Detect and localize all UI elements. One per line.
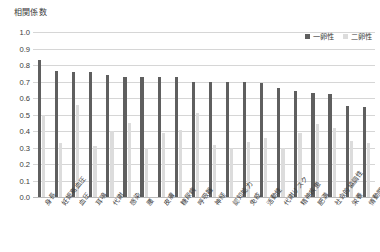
- bar: [140, 77, 143, 197]
- bar: [333, 128, 336, 197]
- x-tick-cell: 活動性: [255, 198, 272, 252]
- bar-group: [307, 32, 324, 197]
- legend-swatch-icon: [305, 34, 310, 39]
- bar-group: [255, 32, 272, 197]
- bar-group: [136, 32, 153, 197]
- x-tick-cell: 糖尿病: [170, 198, 187, 252]
- bar-group: [33, 32, 50, 197]
- bar-group: [204, 32, 221, 197]
- x-tick-cell: 情動関係: [358, 198, 375, 252]
- bar: [230, 148, 233, 198]
- x-tick-cell: 呼吸器: [187, 198, 204, 252]
- y-tick-label: 0.9: [12, 44, 30, 53]
- bar: [128, 123, 131, 197]
- bar: [110, 131, 113, 197]
- x-tick-cell: 身長: [33, 198, 50, 252]
- bar-group: [84, 32, 101, 197]
- y-axis-title: 相関係数: [14, 6, 47, 17]
- x-tick-cell: 肥満: [307, 198, 324, 252]
- bar: [179, 130, 182, 197]
- bar: [209, 82, 212, 197]
- bar: [363, 107, 366, 197]
- bar-group: [50, 32, 67, 197]
- bar: [196, 113, 199, 197]
- y-tick-label: 0.3: [12, 143, 30, 152]
- bar-group: [221, 32, 238, 197]
- bar-group: [187, 32, 204, 197]
- y-tick-label: 0.1: [12, 176, 30, 185]
- legend-item[interactable]: 一卵性: [305, 31, 334, 41]
- bar: [123, 77, 126, 197]
- bar-group: [153, 32, 170, 197]
- bar-series-group: [33, 32, 375, 197]
- y-tick-label: 0.0: [12, 193, 30, 202]
- x-tick-cell: 免疫: [238, 198, 255, 252]
- x-tick-cell: 感染: [118, 198, 135, 252]
- plot-area: [33, 32, 375, 197]
- x-tick-cell: 代謝: [101, 198, 118, 252]
- chart-container: 相関係数 1.00.90.80.70.60.50.40.30.20.10.0 身…: [0, 0, 380, 252]
- legend-label: 二卵性: [351, 31, 372, 41]
- bar-group: [324, 32, 341, 197]
- x-tick-cell: 血圧: [67, 198, 84, 252]
- bar: [145, 148, 148, 198]
- y-tick-label: 0.4: [12, 127, 30, 136]
- bar: [367, 143, 370, 197]
- bar: [226, 82, 229, 197]
- x-axis-tick-labels: 身長妊娠高血圧血圧耳鳴代謝感染腰皮膚糖尿病呼吸器神経認知能力免疫活動性代謝リスク…: [33, 198, 375, 252]
- bar: [55, 71, 58, 197]
- bar-group: [118, 32, 135, 197]
- y-tick-label: 1.0: [12, 28, 30, 37]
- y-tick-label: 0.5: [12, 110, 30, 119]
- x-tick-cell: 精神疾患: [289, 198, 306, 252]
- bar: [158, 77, 161, 197]
- legend-swatch-icon: [343, 34, 348, 39]
- x-tick-cell: 神経: [204, 198, 221, 252]
- y-tick-label: 0.6: [12, 94, 30, 103]
- legend: 一卵性二卵性: [305, 31, 372, 41]
- bar: [328, 94, 331, 197]
- x-tick-cell: 皮膚: [153, 198, 170, 252]
- bar: [93, 146, 96, 197]
- x-tick-cell: 栄養: [341, 198, 358, 252]
- x-tick-cell: 腰: [136, 198, 153, 252]
- x-tick-cell: 社会的協調性: [324, 198, 341, 252]
- x-tick-cell: 代謝リスク: [272, 198, 289, 252]
- x-tick-cell: 認知能力: [221, 198, 238, 252]
- y-tick-label: 0.7: [12, 77, 30, 86]
- bar-group: [289, 32, 306, 197]
- bar: [264, 138, 267, 197]
- bar: [38, 60, 41, 197]
- x-tick-cell: 妊娠高血圧: [50, 198, 67, 252]
- bar-group: [67, 32, 84, 197]
- y-tick-label: 0.2: [12, 160, 30, 169]
- bar: [162, 133, 165, 197]
- bar-group: [101, 32, 118, 197]
- bar: [175, 77, 178, 197]
- x-tick-cell: 耳鳴: [84, 198, 101, 252]
- bar: [42, 115, 45, 198]
- bar-group: [238, 32, 255, 197]
- bar: [192, 82, 195, 198]
- bar-group: [272, 32, 289, 197]
- y-tick-label: 0.8: [12, 61, 30, 70]
- bar: [106, 75, 109, 197]
- bar: [59, 143, 62, 197]
- bar: [277, 88, 280, 197]
- legend-label: 一卵性: [313, 31, 334, 41]
- legend-item[interactable]: 二卵性: [343, 31, 372, 41]
- bar: [89, 72, 92, 197]
- bar: [260, 83, 263, 197]
- bar-group: [170, 32, 187, 197]
